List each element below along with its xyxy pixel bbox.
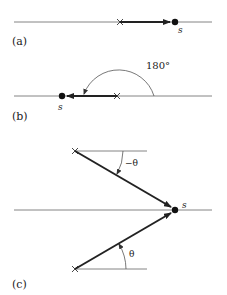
angle-arc-theta xyxy=(119,244,126,269)
panel-label-a: (a) xyxy=(12,35,27,48)
angle-arc-neg-theta xyxy=(117,151,123,174)
pole-zero-vector-diagram: s (a) 180° s (b) −θ θ s xyxy=(0,0,227,295)
point-s-label: s xyxy=(182,200,187,210)
point-s-label: s xyxy=(58,102,63,112)
upper-vector-arrow xyxy=(75,151,171,207)
point-s-label: s xyxy=(178,25,183,35)
lower-vector-arrow xyxy=(75,213,171,269)
angle-arc-180 xyxy=(84,70,154,96)
panel-c: −θ θ s (c) xyxy=(12,148,212,291)
point-s-dot xyxy=(172,207,178,213)
panel-label-c: (c) xyxy=(12,278,27,291)
panel-label-b: (b) xyxy=(12,110,28,123)
angle-label-180: 180° xyxy=(146,60,170,71)
panel-a: s (a) xyxy=(12,19,212,48)
panel-b: 180° s (b) xyxy=(12,60,212,123)
angle-label-theta: θ xyxy=(129,249,134,259)
angle-label-neg-theta: −θ xyxy=(125,158,138,168)
point-s-dot xyxy=(59,93,65,99)
